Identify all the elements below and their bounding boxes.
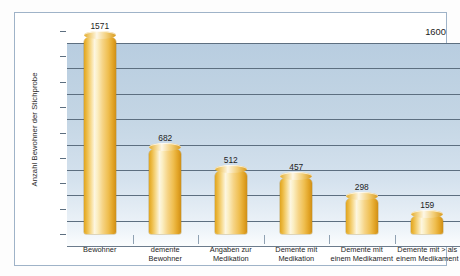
bar-value-label-1: 682 bbox=[135, 133, 195, 143]
bar-value-label-2: 512 bbox=[201, 155, 261, 165]
x-axis-category-label-4-line-0: Demente mit bbox=[329, 245, 395, 254]
bar-0 bbox=[84, 35, 116, 234]
x-axis-category-label-4: Demente miteinem Medikament bbox=[329, 245, 395, 264]
y-tick-label-1600: 1600 bbox=[402, 26, 446, 37]
bar-cap-2 bbox=[215, 165, 247, 173]
bar-5 bbox=[411, 214, 443, 234]
gridline-800 bbox=[67, 145, 460, 146]
y-tick-mark-0 bbox=[60, 234, 66, 235]
bar-cap-3 bbox=[280, 172, 312, 180]
category-separator-4 bbox=[329, 235, 330, 244]
gridline-1600 bbox=[67, 43, 460, 44]
x-axis-category-label-2-line-0: Angaben zur bbox=[198, 245, 264, 254]
x-axis-category-label-5-line-1: einem Medikament bbox=[395, 254, 460, 263]
y-tick-mark-600 bbox=[60, 158, 66, 159]
bar-value-label-4: 298 bbox=[332, 182, 392, 192]
x-axis-category-label-2-line-1: Medikation bbox=[198, 254, 264, 263]
x-axis-category-label-0-line-0: Bewohner bbox=[67, 245, 133, 254]
bar-cap-1 bbox=[149, 143, 181, 151]
x-axis-category-label-1-line-0: demente bbox=[133, 245, 199, 254]
x-axis-category-label-1: dementeBewohner bbox=[133, 245, 199, 264]
gridline-400 bbox=[67, 195, 460, 196]
bar-cap-5 bbox=[411, 210, 443, 218]
gridline-1000 bbox=[67, 119, 460, 120]
bar-cap-0 bbox=[84, 31, 116, 39]
x-axis-category-label-0: Bewohner bbox=[67, 245, 133, 254]
y-tick-mark-1000 bbox=[60, 107, 66, 108]
category-separator-2 bbox=[198, 235, 199, 244]
plot-area bbox=[67, 43, 460, 246]
x-axis-category-label-5: Demente mit > alseinem Medikament bbox=[395, 245, 460, 264]
gridline-1400 bbox=[67, 68, 460, 69]
x-axis-category-label-4-line-1: einem Medikament bbox=[329, 254, 395, 263]
bar-4 bbox=[346, 196, 378, 234]
bar-3 bbox=[280, 176, 312, 234]
y-tick-mark-200 bbox=[60, 209, 66, 210]
gridline-600 bbox=[67, 170, 460, 171]
x-axis-category-label-5-line-0: Demente mit > als bbox=[395, 245, 460, 254]
x-axis-category-label-3-line-0: Demente mit bbox=[264, 245, 330, 254]
bar-value-label-0: 1571 bbox=[70, 21, 130, 31]
gridline-200 bbox=[67, 221, 460, 222]
gridline-1200 bbox=[67, 94, 460, 95]
x-axis-category-label-1-line-1: Bewohner bbox=[133, 254, 199, 263]
y-tick-mark-1600 bbox=[60, 31, 66, 32]
y-tick-mark-1200 bbox=[60, 82, 66, 83]
y-tick-mark-800 bbox=[60, 133, 66, 134]
bar-2 bbox=[215, 169, 247, 234]
category-separator-3 bbox=[264, 235, 265, 244]
x-axis-category-label-2: Angaben zurMedikation bbox=[198, 245, 264, 264]
x-axis-category-label-3: Demente mitMedikation bbox=[264, 245, 330, 264]
bar-1 bbox=[149, 147, 181, 234]
figure-frame: Anzahl Bewohner der Stichprobe 020040060… bbox=[14, 12, 447, 266]
bar-value-label-5: 159 bbox=[397, 200, 457, 210]
bar-cap-4 bbox=[346, 192, 378, 200]
bar-value-label-3: 457 bbox=[266, 162, 326, 172]
y-tick-mark-1400 bbox=[60, 56, 66, 57]
category-separator-5 bbox=[395, 235, 396, 244]
x-axis-category-label-3-line-1: Medikation bbox=[264, 254, 330, 263]
category-separator-1 bbox=[133, 235, 134, 244]
chart-figure: Anzahl Bewohner der Stichprobe 020040060… bbox=[0, 0, 460, 276]
y-axis-title: Anzahl Bewohner der Stichprobe bbox=[30, 45, 39, 215]
y-tick-mark-400 bbox=[60, 183, 66, 184]
